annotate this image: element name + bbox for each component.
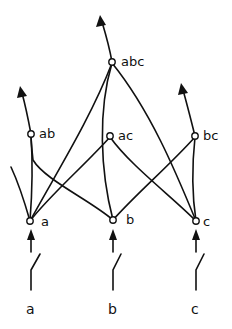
input-c: c [191,229,204,317]
switch-icon [31,254,40,290]
input-a: a [26,229,40,317]
node-label-c: c [203,214,210,229]
input-label-a: a [26,301,35,317]
edge-a-abc [30,63,112,221]
node-a [27,218,33,224]
input-label-c: c [191,301,199,317]
edges-to-ac [30,137,196,221]
input-label-b: b [108,301,117,317]
node-ab [28,131,34,137]
edge-abc-output [102,22,112,62]
switch-icon [196,254,204,290]
node-b [110,217,116,223]
arrow-up-icon [192,229,200,240]
node-label-abc: abc [121,54,144,69]
node-bc [192,133,198,139]
node-label-ac: ac [118,128,133,143]
arrow-up-icon [27,229,35,240]
switch-icon [113,254,121,290]
arrow-up-icon [17,86,27,98]
input-b: b [108,229,121,317]
arrow-up-icon [178,83,188,95]
node-ac [107,133,113,139]
node-label-a: a [41,214,49,229]
arrow-up-icon [96,15,106,27]
output-arrows [17,15,195,136]
lattice-diagram: a b c abc ab ac bc a b c [0,0,232,329]
edge-ab-output [22,93,31,134]
node-abc [109,59,115,65]
node-label-b: b [126,212,134,227]
node-label-bc: bc [203,128,218,143]
nodes: abc ab ac bc a b c [27,54,219,229]
edge-a-offscreen [11,167,30,221]
edge-c-bc [193,137,196,221]
edge-b-abc [102,63,113,220]
node-c [193,218,199,224]
arrow-up-icon [109,229,117,240]
node-label-ab: ab [39,126,55,141]
edge-bc-output [183,90,195,136]
